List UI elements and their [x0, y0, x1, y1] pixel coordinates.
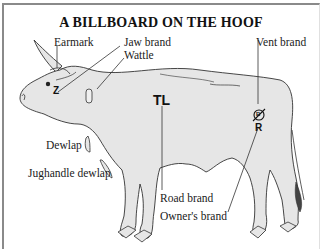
wattle-shape — [86, 89, 92, 103]
eye-icon — [46, 82, 50, 86]
label-earmark: Earmark — [54, 37, 94, 49]
label-wattle: Wattle — [124, 50, 154, 62]
label-owners-brand: Owner's brand — [160, 211, 227, 223]
owners-brand-mark: R — [255, 123, 262, 133]
label-vent-brand: Vent brand — [256, 37, 306, 49]
jaw-brand-mark: Z — [53, 86, 59, 96]
label-dewlap: Dewlap — [46, 140, 82, 152]
vent-brand-mark: B — [256, 111, 260, 117]
label-road-brand: Road brand — [160, 193, 213, 205]
label-jaw-brand: Jaw brand — [124, 37, 171, 49]
label-jughandle-dewlap: Jughandle dewlap — [28, 168, 111, 180]
road-brand-mark: TL — [153, 93, 170, 107]
dewlap-shape — [85, 136, 90, 152]
